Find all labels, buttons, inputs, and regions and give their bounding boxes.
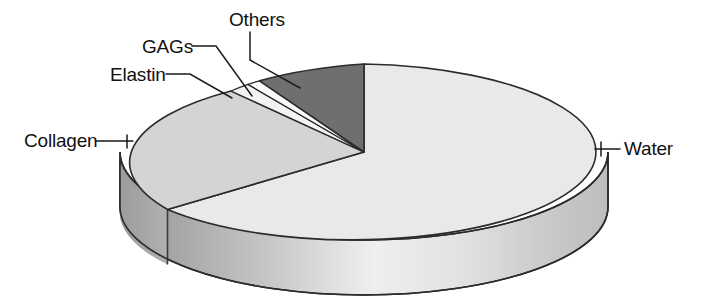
pie-chart-canvas: [0, 0, 702, 299]
slice-label-others: Others: [229, 10, 285, 29]
slice-label-water: Water: [624, 139, 673, 158]
slice-label-gags: GAGs: [142, 37, 193, 56]
slice-label-collagen: Collagen: [24, 131, 97, 150]
pie-chart-figure: Others GAGs Elastin Collagen Water: [0, 0, 702, 299]
slice-label-elastin: Elastin: [110, 65, 166, 84]
